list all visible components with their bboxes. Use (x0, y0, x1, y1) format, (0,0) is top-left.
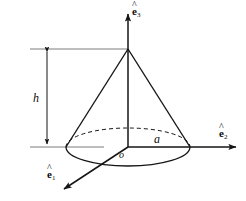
e1-subscript: 1 (52, 174, 56, 182)
radius-label: a (154, 133, 160, 145)
hat-accent-e3: ^ (132, 0, 137, 10)
cone-diagram: ^ e 3 ^ e 2 ^ e 1 h a o (0, 0, 246, 201)
origin-label: o (119, 150, 124, 160)
hat-accent-e2: ^ (219, 122, 224, 132)
basis-vector-e3-label: ^ e 3 (132, 6, 140, 17)
e2-subscript: 2 (224, 133, 228, 141)
height-extension-lines (30, 49, 128, 147)
basis-vector-e1-label: ^ e 1 (47, 169, 55, 180)
basis-vector-e2-label: ^ e 2 (219, 128, 227, 139)
height-label: h (33, 92, 39, 104)
base-ellipse-front-arc (66, 147, 190, 166)
hat-accent-e1: ^ (47, 163, 52, 173)
cone-slant-left (66, 49, 128, 147)
e3-subscript: 3 (137, 11, 141, 19)
